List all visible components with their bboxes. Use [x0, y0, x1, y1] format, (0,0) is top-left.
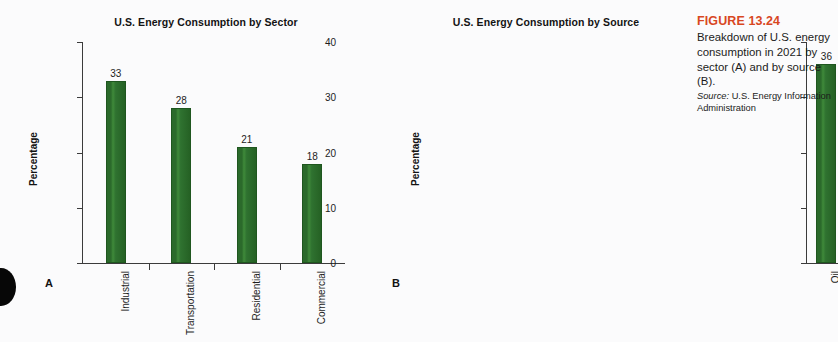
plot-area-sector: 01020304033Industrial28Transportation21R… [82, 42, 345, 264]
x-axis-category-label: Industrial [120, 271, 131, 312]
figure-source: Source: U.S. Energy Information Administ… [697, 91, 834, 115]
bar-value-label: 21 [241, 134, 252, 145]
figure-caption: FIGURE 13.24 Breakdown of U.S. energy co… [697, 14, 838, 115]
y-axis-tick [801, 263, 807, 264]
bar: 18 [302, 164, 322, 263]
y-axis-tick [801, 208, 807, 209]
y-axis-tick-label: 20 [325, 147, 336, 158]
bar: 33 [106, 81, 126, 263]
x-axis-tick [280, 263, 281, 270]
y-axis-tick [77, 263, 83, 264]
figure-number: FIGURE 13.24 [697, 14, 834, 28]
chart-title-source: U.S. Energy Consumption by Source [398, 16, 694, 28]
figure-container: U.S. Energy Consumption by Sector Percen… [0, 0, 838, 342]
bar: 21 [237, 147, 257, 263]
y-axis-tick [77, 42, 83, 43]
bar: 28 [171, 108, 191, 263]
bar-value-label: 18 [307, 151, 318, 162]
x-axis-category-label: Transportation [185, 271, 196, 335]
y-axis-tick-label: 30 [325, 92, 336, 103]
chart-panel-source: U.S. Energy Consumption by Source Percen… [382, 0, 694, 342]
x-axis-category-label: Commercial [316, 271, 327, 324]
chart-panel-sector: U.S. Energy Consumption by Sector Percen… [0, 0, 382, 342]
x-axis-tick [149, 263, 150, 270]
x-axis-tick [214, 263, 215, 270]
bar-value-label: 33 [110, 68, 121, 79]
y-axis-tick-label: 40 [325, 37, 336, 48]
panel-letter-b: B [392, 277, 400, 289]
bar-value-label: 28 [176, 95, 187, 106]
x-axis-category-label: Oil [830, 271, 838, 283]
y-axis-tick-label: 10 [325, 202, 336, 213]
y-axis-tick [77, 97, 83, 98]
source-tag: Source: [697, 91, 729, 101]
y-axis-tick-label: 0 [330, 258, 336, 269]
panel-letter-a: A [45, 277, 53, 289]
x-axis-category-label: Residential [251, 271, 262, 320]
y-axis-tick [77, 208, 83, 209]
y-axis-label-source: Percentage [410, 132, 421, 186]
y-axis-tick [77, 153, 83, 154]
y-axis-tick [801, 153, 807, 154]
y-axis-label-sector: Percentage [28, 132, 39, 186]
figure-description: Breakdown of U.S. energy consumption in … [697, 30, 834, 89]
chart-title-sector: U.S. Energy Consumption by Sector [30, 16, 382, 28]
